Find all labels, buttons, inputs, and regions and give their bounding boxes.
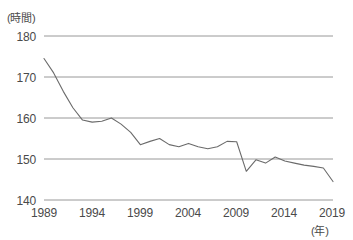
gridlines bbox=[44, 36, 333, 200]
plot-area bbox=[0, 0, 353, 240]
line-chart: (時間) (年) 180 170 160 150 140 1989 1994 1… bbox=[0, 0, 353, 240]
